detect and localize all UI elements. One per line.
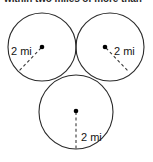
left-center-dot: [40, 45, 45, 50]
right-radius-label: 2 mi: [114, 45, 135, 57]
left-radius-label: 2 mi: [11, 45, 32, 57]
geometry-figure: within two miles of more than 2 mi 2 mi …: [0, 0, 153, 162]
bottom-radius-label: 2 mi: [81, 131, 102, 143]
three-circles-diagram: 2 mi 2 mi 2 mi: [0, 0, 153, 162]
bottom-center-dot: [74, 109, 79, 114]
right-center-dot: [103, 45, 108, 50]
